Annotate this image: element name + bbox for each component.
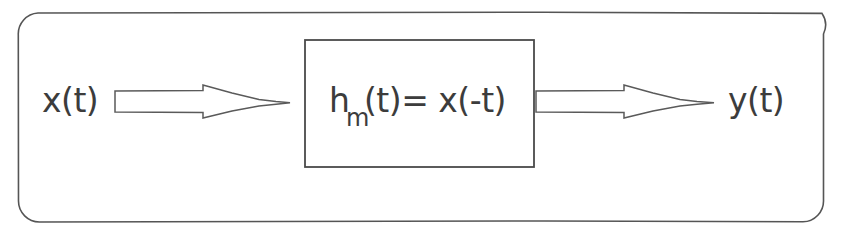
input-arrow-shape — [115, 85, 290, 118]
output-arrow-shape — [536, 85, 714, 118]
output-label: y(t) — [728, 81, 784, 120]
block-expression-rest: (t)= x(-t) — [364, 81, 506, 120]
diagram-canvas: x(t) h m (t)= x(-t) y(t) — [0, 0, 843, 238]
output-arrow — [536, 85, 714, 118]
input-label: x(t) — [42, 81, 98, 120]
filter-block: h m (t)= x(-t) — [305, 40, 534, 167]
block-diagram-figure: x(t) h m (t)= x(-t) y(t) — [0, 0, 843, 238]
input-arrow — [115, 85, 290, 118]
